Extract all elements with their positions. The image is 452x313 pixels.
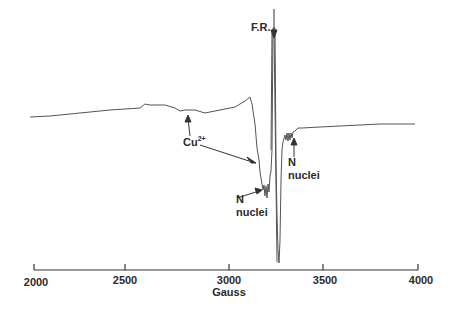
n-nuclei-left-n: N <box>236 193 244 205</box>
tick-label-3500: 3500 <box>313 274 337 286</box>
x-axis-title: Gauss <box>212 286 246 298</box>
tick-label-2500: 2500 <box>113 274 137 286</box>
tick-label-3000: 3000 <box>217 274 241 286</box>
n-nuclei-right-label: nuclei <box>288 169 320 181</box>
cu-label: Cu2+ <box>183 135 206 148</box>
spectrum-line <box>30 28 415 263</box>
cu-sup: 2+ <box>198 135 206 142</box>
epr-spectrum-chart <box>0 0 452 313</box>
tick-label-2000: 2000 <box>24 276 48 288</box>
n-nuclei-right-n: N <box>288 156 296 168</box>
cu-base: Cu <box>183 136 198 148</box>
tick-label-4000: 4000 <box>409 274 433 286</box>
n-nuclei-left-label: nuclei <box>236 206 268 218</box>
x-axis <box>34 264 418 270</box>
fr-label: F.R. <box>251 21 271 33</box>
